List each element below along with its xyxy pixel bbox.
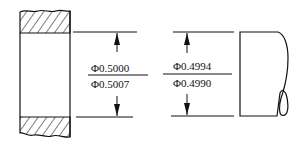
fit-diagram	[0, 0, 303, 148]
shaft-dimension-arrow-up-icon	[184, 33, 190, 53]
shaft-upper-limit-label: Φ0.4994	[173, 60, 211, 72]
hole-part	[20, 10, 70, 137]
shaft-dimension-arrow-down-icon	[184, 94, 190, 115]
shaft-lower-limit-label: Φ0.4990	[173, 77, 211, 89]
hole-bottom-section-hatch	[20, 117, 70, 137]
hole-dimension-arrow-down-icon	[114, 96, 120, 116]
hole-lower-limit-label: Φ0.5007	[91, 78, 129, 90]
shaft-part	[240, 32, 288, 116]
shaft-outline	[240, 32, 288, 116]
hole-top-section-hatch	[20, 10, 70, 33]
hole-upper-limit-label: Φ0.5000	[91, 62, 129, 74]
hole-dimension-arrow-up-icon	[114, 33, 120, 52]
